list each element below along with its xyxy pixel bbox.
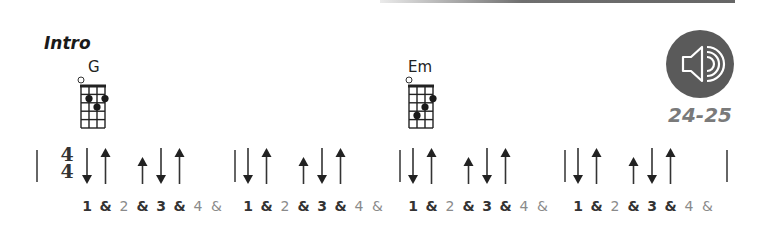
up-strum-arrow-icon [336,148,346,184]
beat-count: 2 [120,198,129,214]
up-strum-arrow-icon [175,148,185,184]
beat-count: 3 [647,198,657,214]
finger-dot [93,103,100,110]
beat-counts: 1&2&3&4&1&2&3&4&1&2&3&4&1&2&3&4& [0,198,765,218]
beat-count: 1 [82,198,92,214]
up-strum-arrow-icon [592,148,602,184]
beat-count: & [425,198,437,214]
finger-dot [413,112,420,119]
up-strum-arrow-icon [262,148,272,184]
beat-count: & [136,198,148,214]
beat-count: & [537,198,548,214]
beat-count: 4 [194,198,203,214]
up-strum-arrow-icon [501,148,511,184]
down-strum-arrow-icon [482,148,492,184]
beat-count: & [211,198,222,214]
finger-dot [421,103,428,110]
beat-count: & [297,198,309,214]
finger-dot [101,95,108,102]
beat-count: 2 [611,198,620,214]
finger-dot [85,95,92,102]
beat-count: 1 [243,198,253,214]
beat-count: & [99,198,111,214]
open-string-marker [78,77,84,83]
down-strum-arrow-icon [647,148,657,184]
down-strum-arrow-icon [573,148,583,184]
finger-dot [429,95,436,102]
down-strum-arrow-icon [243,148,253,184]
section-title: Intro [44,33,91,53]
up-strum-arrow-icon [464,157,474,184]
top-rule [380,0,735,3]
beat-count: & [499,198,511,214]
beat-count: & [627,198,639,214]
strum-pattern [0,140,765,200]
speaker-icon [666,30,734,98]
beat-count: & [372,198,383,214]
up-strum-arrow-icon [101,148,111,184]
up-strum-arrow-icon [299,157,309,184]
beat-count: 4 [685,198,694,214]
down-strum-arrow-icon [317,148,327,184]
up-strum-arrow-icon [427,148,437,184]
beat-count: 1 [573,198,583,214]
beat-count: 2 [446,198,455,214]
beat-count: & [260,198,272,214]
down-strum-arrow-icon [156,148,166,184]
up-strum-arrow-icon [666,148,676,184]
down-strum-arrow-icon [408,148,418,184]
beat-count: 3 [156,198,166,214]
beat-count: 2 [281,198,290,214]
audio-play-button[interactable] [666,30,734,98]
beat-count: & [664,198,676,214]
beat-count: & [462,198,474,214]
track-pages: 24-25 [660,103,740,127]
beat-count: & [702,198,713,214]
chord-grid [80,58,120,138]
up-strum-arrow-icon [138,157,148,184]
beat-count: & [590,198,602,214]
beat-count: 4 [520,198,529,214]
down-strum-arrow-icon [82,148,92,184]
open-string-marker [406,77,412,83]
up-strum-arrow-icon [629,157,639,184]
beat-count: 4 [355,198,364,214]
strum-arrows [0,140,765,200]
chord-grid [408,58,448,138]
beat-count: 3 [317,198,327,214]
beat-count: & [173,198,185,214]
beat-count: 3 [482,198,492,214]
beat-count: 1 [408,198,418,214]
beat-count: & [334,198,346,214]
